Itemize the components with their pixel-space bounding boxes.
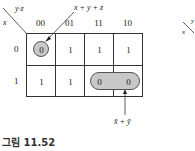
cell-1-01: 1 (56, 66, 85, 98)
col-variable-label: y·z (15, 4, 24, 13)
col-label-11: 11 (84, 18, 113, 28)
col-label-00: 00 (26, 18, 55, 28)
figure-caption: 그림 11.52 (2, 134, 55, 149)
row-label-1: 1 (14, 76, 19, 86)
kmap-grid: 0 1 1 1 1 1 0 0 (26, 33, 143, 97)
cell-1-10: 0 (114, 66, 143, 98)
col-label-10: 10 (113, 18, 142, 28)
cell-0-10: 1 (114, 34, 143, 66)
group-label-xbar-ybar: x̄ + ȳ (114, 117, 131, 126)
cell-0-00: 0 (27, 34, 56, 66)
cell-0-11: 1 (85, 34, 114, 66)
partial-map-row-var: x (182, 28, 185, 36)
cell-1-00: 1 (27, 66, 56, 98)
col-label-01: 01 (55, 18, 84, 28)
row-variable-label: x (3, 18, 7, 27)
cell-0-01: 1 (56, 34, 85, 66)
partial-map-col-var: y (191, 17, 194, 25)
row-label-0: 0 (14, 44, 19, 54)
cell-1-11: 0 (85, 66, 114, 98)
group-label-sum-term: x + y + z (74, 3, 103, 12)
